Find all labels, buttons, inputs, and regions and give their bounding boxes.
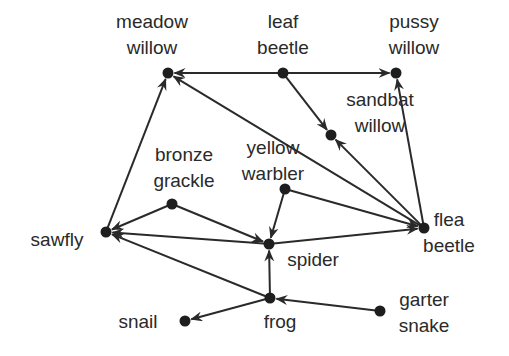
label-snail: snail bbox=[118, 311, 157, 332]
food-web-diagram: meadowwillowleafbeetlepussywillowsandbat… bbox=[0, 0, 509, 356]
label-flea-beetle: fleabeetle bbox=[423, 209, 475, 256]
edge-yellow-warbler-to-spider bbox=[271, 191, 285, 238]
label-pussy-willow: pussywillow bbox=[388, 11, 440, 58]
label-line: spider bbox=[287, 249, 339, 270]
node-bronze-grackle bbox=[167, 199, 178, 210]
label-line: meadow bbox=[116, 11, 188, 32]
label-line: frog bbox=[264, 311, 297, 332]
label-spider: spider bbox=[287, 249, 339, 270]
label-line: willow bbox=[126, 37, 178, 58]
node-yellow-warbler bbox=[280, 184, 291, 195]
label-line: flea bbox=[434, 209, 465, 230]
label-line: grackle bbox=[153, 170, 214, 191]
label-line: beetle bbox=[257, 37, 309, 58]
label-line: bronze bbox=[155, 144, 213, 165]
label-line: willow bbox=[388, 37, 440, 58]
edge-spider-to-flea-beetle bbox=[271, 229, 418, 244]
label-line: sawfly bbox=[31, 229, 84, 250]
label-sandbat-willow: sandbatwillow bbox=[346, 89, 414, 136]
edge-frog-to-spider bbox=[269, 250, 270, 296]
label-garter-snake: gartersnake bbox=[399, 289, 450, 336]
label-frog: frog bbox=[264, 311, 297, 332]
label-line: sandbat bbox=[346, 89, 414, 110]
node-leaf-beetle bbox=[278, 68, 289, 79]
node-frog bbox=[265, 293, 276, 304]
label-line: pussy bbox=[389, 11, 439, 32]
node-garter-snake bbox=[375, 306, 386, 317]
edge-garter-snake-to-frog bbox=[276, 299, 378, 311]
node-snail bbox=[180, 316, 191, 327]
edge-frog-to-sawfly bbox=[112, 234, 268, 297]
node-pussy-willow bbox=[391, 68, 402, 79]
edge-bronze-grackle-to-spider bbox=[174, 205, 263, 242]
edge-bronze-grackle-to-sawfly bbox=[112, 205, 170, 230]
label-line: beetle bbox=[423, 235, 475, 256]
label-line: willow bbox=[354, 115, 406, 136]
label-line: garter bbox=[399, 289, 449, 310]
label-bronze-grackle: bronzegrackle bbox=[153, 144, 214, 191]
label-line: snail bbox=[118, 311, 157, 332]
node-flea-beetle bbox=[419, 223, 430, 234]
edge-leaf-beetle-to-sandbat-willow bbox=[284, 75, 327, 130]
node-meadow-willow bbox=[163, 68, 174, 79]
label-yellow-warbler: yellowwarbler bbox=[241, 137, 305, 184]
node-sawfly bbox=[101, 227, 112, 238]
node-spider bbox=[264, 239, 275, 250]
label-line: yellow bbox=[247, 137, 300, 158]
label-line: snake bbox=[399, 315, 450, 336]
edge-frog-to-snail bbox=[191, 299, 268, 320]
label-sawfly: sawfly bbox=[31, 229, 84, 250]
labels-layer: meadowwillowleafbeetlepussywillowsandbat… bbox=[31, 11, 475, 336]
node-sandbat-willow bbox=[326, 130, 337, 141]
edge-yellow-warbler-to-flea-beetle bbox=[287, 190, 418, 227]
label-leaf-beetle: leafbeetle bbox=[257, 11, 309, 58]
label-line: warbler bbox=[241, 163, 305, 184]
label-meadow-willow: meadowwillow bbox=[116, 11, 188, 58]
label-line: leaf bbox=[268, 11, 299, 32]
